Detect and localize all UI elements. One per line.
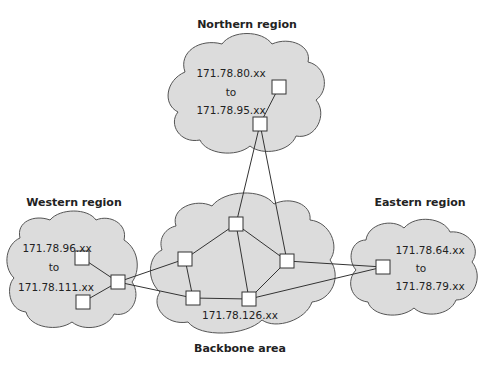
northern-region-cloud [168, 34, 324, 154]
backbone-address: 171.78.126.xx [202, 309, 278, 321]
router-backbone-top[interactable] [229, 217, 243, 231]
router-backbone-left[interactable] [178, 252, 192, 266]
router-east-abr[interactable] [376, 260, 390, 274]
router-north-abr[interactable] [253, 117, 267, 131]
eastern-region-cloud [351, 219, 478, 315]
router-backbone-bottom-left[interactable] [186, 291, 200, 305]
eastern-range-from: 171.78.64.xx [395, 244, 464, 256]
western-range-to: 171.78.111.xx [18, 281, 94, 293]
western-region-cloud [7, 211, 137, 328]
router-north-upper[interactable] [272, 80, 286, 94]
northern-range-from: 171.78.80.xx [196, 67, 265, 79]
eastern-range-to: 171.78.79.xx [395, 280, 464, 292]
western-region-title: Western region [26, 196, 121, 209]
router-west-abr[interactable] [111, 275, 125, 289]
eastern-range-word: to [416, 262, 427, 274]
router-backbone-right[interactable] [280, 254, 294, 268]
eastern-region-title: Eastern region [374, 196, 465, 209]
northern-range-word: to [226, 86, 237, 98]
northern-region-title: Northern region [197, 18, 297, 31]
backbone-area-title: Backbone area [194, 342, 286, 355]
ospf-area-diagram: Northern region 171.78.80.xx to 171.78.9… [0, 0, 485, 365]
western-range-word: to [49, 261, 60, 273]
western-range-from: 171.78.96.xx [22, 242, 91, 254]
router-west-lower[interactable] [76, 295, 90, 309]
router-backbone-bottom-mid[interactable] [242, 292, 256, 306]
northern-range-to: 171.78.95.xx [196, 104, 265, 116]
